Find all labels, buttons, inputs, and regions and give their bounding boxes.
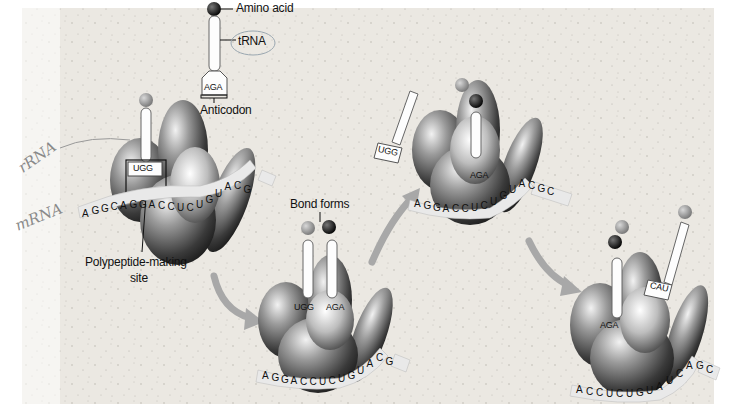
polypeptide-site-label-2: site: [130, 271, 148, 285]
mrna-base: G: [244, 184, 252, 195]
mrna-base: A: [443, 203, 449, 214]
amino-acid-label: Amino acid: [236, 1, 293, 15]
trna-label: tRNA: [238, 34, 266, 48]
mrna-base: G: [272, 372, 280, 383]
mrna-base: C: [596, 387, 603, 398]
mrna-base: C: [676, 368, 683, 379]
mrna-base: U: [626, 388, 633, 399]
mrna-base: U: [606, 388, 613, 399]
mrna-base: C: [481, 200, 488, 211]
mrna-base: C: [528, 180, 535, 191]
mrna-base: C: [462, 203, 469, 214]
mrna-base: C: [376, 352, 383, 363]
mrna-base: G: [386, 356, 394, 367]
mrna-base: C: [329, 375, 336, 386]
mrna-base: A: [82, 208, 88, 219]
mrna-base: C: [706, 364, 713, 375]
mrna-base: C: [547, 186, 554, 197]
bond-forms-label: Bond forms: [290, 197, 349, 211]
mrna-base: A: [262, 370, 268, 381]
mrna-base: G: [538, 183, 546, 194]
mrna-base: C: [187, 202, 194, 213]
translation-diagram: Amino acid tRNA AGA Anticodon Polypeptid…: [0, 0, 735, 412]
mrna-base: A: [414, 198, 420, 209]
mrna-base: G: [348, 370, 356, 381]
mrna-base: C: [586, 386, 593, 397]
anticodon-stage-2-a: UGG: [294, 302, 314, 312]
mrna-base: U: [319, 376, 326, 387]
mrna-base: U: [471, 202, 478, 213]
mrna-base: U: [196, 199, 203, 210]
mrna-base: G: [281, 374, 289, 385]
mrna-base: U: [509, 184, 516, 195]
mrna-base: U: [215, 188, 222, 199]
mrna-base: G: [92, 205, 100, 216]
mrna-base: G: [101, 203, 109, 214]
mrna-base: A: [686, 360, 692, 371]
mrna-base: G: [636, 387, 644, 398]
mrna-base: U: [177, 202, 184, 213]
legend-anticodon-text: AGA: [204, 82, 222, 92]
anticodon-stage-4-a: AGA: [600, 320, 618, 330]
mrna-base: U: [338, 373, 345, 384]
mrna-base: U: [646, 385, 653, 396]
mrna-base: A: [519, 178, 525, 189]
mrna-base: C: [168, 201, 175, 212]
mrna-base: A: [576, 384, 582, 395]
mrna-base: G: [139, 199, 147, 210]
mrna-base: A: [291, 375, 297, 386]
mrna-base: G: [424, 200, 432, 211]
mrna-base: C: [310, 376, 317, 387]
mrna-base: A: [367, 358, 373, 369]
mrna-base: G: [206, 194, 214, 205]
mrna-base: G: [433, 202, 441, 213]
mrna-base: C: [234, 180, 241, 191]
polypeptide-site-label: Polypeptide-making: [85, 255, 187, 269]
mrna-base: U: [357, 365, 364, 376]
anticodon-stage-1: UGG: [133, 163, 153, 173]
mrna-base: C: [616, 388, 623, 399]
mrna-base: A: [120, 200, 126, 211]
mrna-base: U: [490, 196, 497, 207]
mrna-base: A: [149, 199, 155, 210]
anticodon-stage-3-b: AGA: [470, 170, 488, 180]
mrna-base: C: [452, 203, 459, 214]
mrna-base: A: [656, 381, 662, 392]
mrna-base: U: [666, 375, 673, 386]
anticodon-label: Anticodon: [200, 103, 252, 117]
mrna-base: A: [225, 181, 231, 192]
mrna-base: C: [111, 201, 118, 212]
mrna-base: C: [158, 200, 165, 211]
mrna-base: G: [696, 360, 704, 371]
anticodon-stage-2-b: AGA: [326, 302, 344, 312]
mrna-base: G: [500, 190, 508, 201]
mrna-base: C: [300, 376, 307, 387]
mrna-base: G: [130, 199, 138, 210]
